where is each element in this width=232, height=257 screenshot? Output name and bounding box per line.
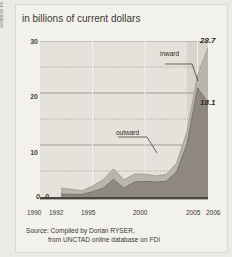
zero-label-1991: 0 [45, 193, 54, 200]
chart-svg [40, 41, 208, 208]
x-tick-2000: 2000 [133, 209, 147, 216]
source-line-1: Source: Compiled by Dorian RYSER, [26, 227, 135, 234]
zero-value-labels: 00 [36, 193, 54, 200]
source-line-2: from UNCTAD online database on FDI [48, 235, 160, 244]
x-axis-line [40, 197, 208, 199]
x-tick-1990: 1990 [27, 209, 41, 216]
zero-label-1990: 0 [36, 193, 45, 200]
chart-figure: Sciences Po / CERI et Atelier de cartogr… [0, 0, 232, 257]
annotation-outward: outward [116, 129, 139, 136]
end-value-outward: 18.1 [200, 98, 216, 107]
x-tick-1992: 1992 [49, 209, 63, 216]
x-tick-1995: 1995 [81, 209, 95, 216]
side-credit-text: Sciences Po / CERI et Atelier de cartogr… [0, 0, 6, 28]
y-tick-20: 20 [22, 93, 38, 100]
x-tick-2005: 2005 [186, 209, 200, 216]
annotation-inward: inward [160, 50, 179, 57]
chart-title: in billions of current dollars [22, 13, 140, 24]
chart-plot-area [40, 41, 208, 208]
y-tick-30: 30 [22, 38, 38, 45]
x-axis-labels: 1990 1992 1995 2000 2005 2006 [0, 209, 232, 221]
source-note: Source: Compiled by Dorian RYSER, from U… [26, 226, 160, 244]
end-value-inward: 28.7 [200, 36, 216, 45]
x-tick-2006: 2006 [206, 209, 220, 216]
y-tick-10: 10 [22, 149, 38, 156]
